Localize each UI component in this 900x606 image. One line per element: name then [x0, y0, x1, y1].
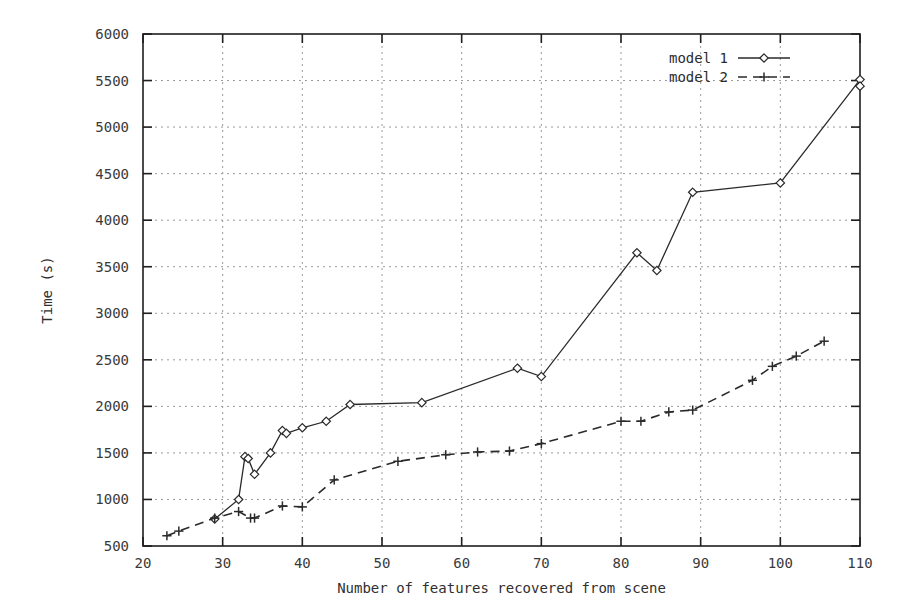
x-tick-label: 50: [374, 555, 391, 571]
y-tick-label: 500: [104, 538, 129, 554]
x-tick-label: 20: [135, 555, 152, 571]
x-tick-label: 30: [214, 555, 231, 571]
x-tick-label: 70: [533, 555, 550, 571]
y-tick-label: 1500: [95, 445, 129, 461]
x-tick-label: 90: [692, 555, 709, 571]
y-tick-label: 1000: [95, 491, 129, 507]
x-tick-label: 110: [847, 555, 872, 571]
y-tick-label: 3500: [95, 259, 129, 275]
chart-canvas: 5001000150020002500300035004000450050005…: [0, 0, 900, 606]
y-tick-label: 6000: [95, 26, 129, 42]
x-tick-label: 80: [613, 555, 630, 571]
x-tick-label: 60: [453, 555, 470, 571]
y-tick-label: 5000: [95, 119, 129, 135]
legend-label-1: model 1: [669, 50, 728, 66]
y-tick-label: 2000: [95, 398, 129, 414]
legend-label-2: model 2: [669, 69, 728, 85]
y-tick-label: 4500: [95, 166, 129, 182]
y-tick-label: 2500: [95, 352, 129, 368]
y-axis-title: Time (s): [39, 256, 55, 323]
y-tick-label: 4000: [95, 212, 129, 228]
x-tick-label: 40: [294, 555, 311, 571]
y-tick-label: 3000: [95, 305, 129, 321]
x-tick-label: 100: [768, 555, 793, 571]
y-tick-label: 5500: [95, 73, 129, 89]
x-axis-title: Number of features recovered from scene: [337, 580, 666, 596]
line-chart: 5001000150020002500300035004000450050005…: [0, 0, 900, 606]
chart-background: [0, 0, 900, 606]
